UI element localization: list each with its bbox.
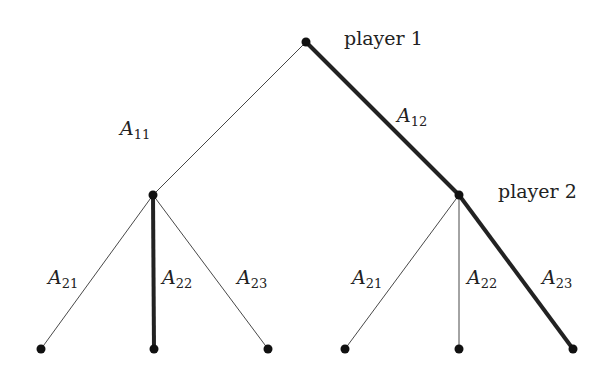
game-tree-diagram: player 1 player 2 A11 A12 A21 A22 A23 A2… (0, 0, 612, 374)
edge-a12 (306, 42, 459, 195)
leaf-node (150, 345, 159, 354)
leaf-node (569, 345, 578, 354)
player-2-label: player 2 (498, 180, 577, 202)
edge-label-left-a23: A23 (235, 266, 267, 291)
leaf-node (341, 345, 350, 354)
node-root (302, 38, 311, 47)
edge-label-left-a21: A21 (46, 266, 78, 291)
edge-label-right-a22: A22 (465, 266, 497, 291)
leaf-node (37, 345, 46, 354)
node-right (455, 191, 464, 200)
edge-label-a11: A11 (118, 117, 150, 142)
leaf-node (455, 345, 464, 354)
edge-label-right-a23: A23 (540, 266, 572, 291)
node-left (149, 191, 158, 200)
edge-label-left-a22: A22 (160, 266, 192, 291)
edge-a11 (153, 42, 306, 195)
edge-label-a12: A12 (395, 104, 427, 129)
edge-label-right-a21: A21 (350, 266, 382, 291)
edge-left-a22 (153, 195, 154, 349)
player-1-label: player 1 (344, 27, 423, 49)
leaf-node (264, 345, 273, 354)
